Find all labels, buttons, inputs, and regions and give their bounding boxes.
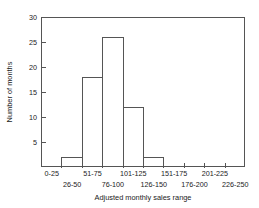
y-tick-labels: 5 10 15 20 25 30 <box>29 13 37 147</box>
y-tick-label-10: 10 <box>29 113 37 122</box>
x-label-0-25: 0-25 <box>45 169 59 178</box>
x-label-26-50: 26-50 <box>63 180 81 189</box>
y-axis-title: Number of months <box>5 61 14 122</box>
y-tick-label-25: 25 <box>29 38 37 47</box>
y-tick-label-20: 20 <box>29 63 37 72</box>
x-label-201-225: 201-225 <box>202 169 228 178</box>
x-labels-lower-row: 26-50 76-100 126-150 176-200 226-250 <box>63 180 249 189</box>
x-label-101-125: 101-125 <box>120 169 146 178</box>
x-label-226-250: 226-250 <box>222 180 248 189</box>
x-label-76-100: 76-100 <box>102 180 124 189</box>
y-tick-label-5: 5 <box>33 138 37 147</box>
chart-canvas: 5 10 15 20 25 30 Number of months <box>0 0 259 208</box>
x-label-126-150: 126-150 <box>141 180 167 189</box>
x-label-51-75: 51-75 <box>83 169 101 178</box>
x-label-176-200: 176-200 <box>181 180 207 189</box>
y-tick-label-30: 30 <box>29 13 37 22</box>
x-labels-upper-row: 0-25 51-75 101-125 151-175 201-225 <box>45 169 229 178</box>
y-tick-label-15: 15 <box>29 88 37 97</box>
x-axis-title: Adjusted monthly sales range <box>95 193 192 202</box>
histogram-figure: 5 10 15 20 25 30 Number of months <box>0 0 259 208</box>
x-label-151-175: 151-175 <box>161 169 187 178</box>
